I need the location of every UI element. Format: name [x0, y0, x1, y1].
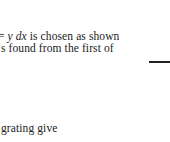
line-1-text: is chosen as shown: [27, 30, 120, 42]
math-y-dx: y dx: [8, 30, 27, 42]
text-line-2: s found from the first of: [1, 42, 114, 54]
text-line-3: grating give: [1, 122, 57, 134]
equals-fragment: =: [0, 30, 8, 42]
fraction-rule: [149, 61, 170, 63]
text-line-1: = y dx is chosen as shown: [0, 30, 119, 42]
